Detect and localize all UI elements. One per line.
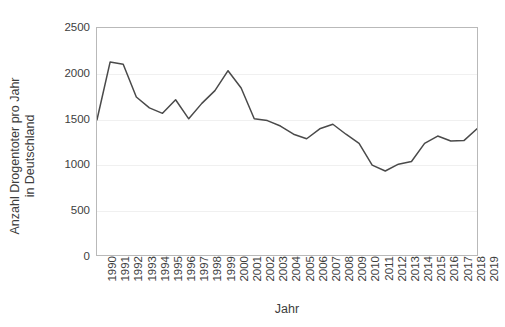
y-axis-title-line-1: Anzahl Drogentoter pro Jahr [8,77,23,234]
x-axis-tick-label: 1994 [159,256,171,300]
x-axis-tick-label: 1993 [146,256,158,300]
y-axis-tick-label: 2000 [52,67,90,79]
x-axis-tick-label: 2019 [488,256,500,300]
x-axis-tick-label: 2018 [475,256,487,300]
x-axis-tick-label: 1999 [225,256,237,300]
x-axis-tick-label: 1997 [198,256,210,300]
x-axis-tick-label: 2011 [383,256,395,300]
x-axis-tick-label: 2017 [462,256,474,300]
x-axis-tick-label: 1998 [211,256,223,300]
x-axis-tick-label: 1996 [185,256,197,300]
y-axis-tick-label: 0 [52,250,90,262]
y-axis-title: Anzahl Drogentoter pro Jahr in Deutschla… [0,31,46,281]
x-axis-tick-label: 2013 [409,256,421,300]
x-axis-tick-label: 2012 [396,256,408,300]
x-axis-tick-label: 2000 [238,256,250,300]
x-axis-tick-label: 2002 [264,256,276,300]
y-axis-tick-labels: 25002000150010005000 [48,0,90,327]
x-axis-tick-label: 2008 [343,256,355,300]
x-axis-tick-label: 2016 [448,256,460,300]
data-series-line [97,28,477,255]
x-axis-tick-label: 2001 [251,256,263,300]
drug-deaths-line-chart: Anzahl Drogentoter pro Jahr in Deutschla… [0,0,505,327]
x-axis-tick-label: 1991 [119,256,131,300]
x-axis-tick-label: 2015 [435,256,447,300]
x-axis-tick-label: 1995 [172,256,184,300]
y-axis-title-line-2: in Deutschland [23,115,38,198]
x-axis-tick-label: 1992 [132,256,144,300]
x-axis-tick-label: 2005 [304,256,316,300]
x-axis-tick-labels: 1990199119921993199419951996199719981999… [96,258,478,302]
x-axis-tick-label: 1990 [106,256,118,300]
y-axis-tick-label: 1500 [52,113,90,125]
y-axis-tick-label: 2500 [52,21,90,33]
data-series-polyline [97,62,477,171]
x-axis-tick-label: 2007 [330,256,342,300]
x-axis-tick-label: 2003 [277,256,289,300]
x-axis-tick-label: 2010 [369,256,381,300]
x-axis-title: Jahr [96,302,478,316]
x-axis-tick-label: 2014 [422,256,434,300]
y-axis-tick-label: 500 [52,204,90,216]
x-axis-tick-label: 2006 [317,256,329,300]
y-axis-tick-label: 1000 [52,158,90,170]
x-axis-tick-label: 2009 [356,256,368,300]
x-axis-tick-label: 2004 [290,256,302,300]
plot-area [96,27,478,256]
